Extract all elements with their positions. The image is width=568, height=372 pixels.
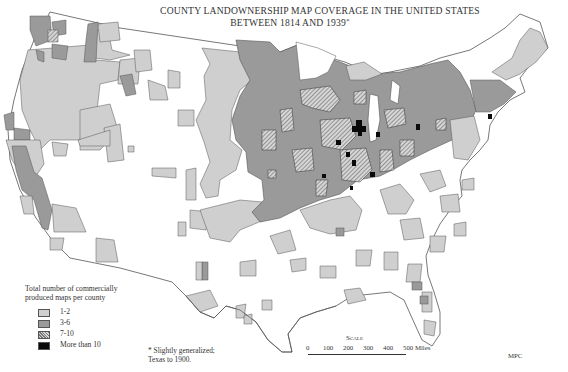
legend-item-more-than-10: More than 10: [38, 340, 135, 351]
region-1-2: [186, 168, 196, 200]
legend: Total number of commercially produced ma…: [25, 285, 135, 351]
legend-item-3-6: 3-6: [38, 318, 135, 329]
region-3-6: [336, 228, 344, 236]
region-3-6: [52, 44, 68, 60]
footnote: * Slightly generalized; Texas to 1900.: [148, 347, 215, 364]
region-1-2: [244, 314, 252, 324]
scale-tick: 400: [383, 344, 393, 351]
region-1-2: [196, 262, 202, 280]
legend-items: 1-2 3-6 7-10 More than 10: [38, 307, 135, 351]
region-1-2: [178, 110, 194, 126]
legend-label: More than 10: [60, 341, 101, 350]
region-7-10: [48, 30, 58, 42]
region-3-6: [412, 282, 422, 290]
cartographer-credit: MPC: [508, 352, 522, 359]
region-1-2: [50, 238, 64, 250]
legend-label: 7-10: [60, 330, 74, 339]
scale-tick: 100: [323, 344, 333, 351]
region-3-6: [420, 296, 428, 304]
region-1-2: [262, 300, 272, 310]
region-3-6: [4, 112, 14, 130]
region-1-2: [178, 222, 186, 236]
swatch-crosshatch: [38, 331, 50, 339]
swatch-black: [38, 342, 50, 350]
region-1-2: [152, 168, 176, 178]
region-1-2: [52, 142, 68, 156]
legend-item-7-10: 7-10: [38, 329, 135, 340]
region-1-2: [168, 70, 180, 88]
region-3-6: [202, 262, 208, 280]
region-1-2: [20, 196, 34, 214]
region-1-2: [98, 22, 120, 42]
legend-heading: Total number of commercially produced ma…: [25, 285, 135, 302]
legend-item-1-2: 1-2: [38, 307, 135, 318]
map-title-line2: BETWEEN 1814 AND 1939*: [140, 17, 440, 28]
scale-line: [308, 354, 406, 355]
scale-tick: 500 Miles: [403, 344, 430, 351]
region-1-2: [134, 50, 152, 72]
swatch-light-gray: [38, 309, 50, 317]
region-3-6: [14, 128, 30, 140]
scale-tick: 200: [343, 344, 353, 351]
scale-ticks: 0 100 200 300 400 500 Miles: [306, 344, 446, 354]
region-1-2: [128, 146, 134, 152]
scale-tick: 300: [363, 344, 373, 351]
footnote-marker: *: [346, 17, 350, 25]
map-title-line2-text: BETWEEN 1814 AND 1939: [230, 17, 346, 28]
legend-label: 3-6: [60, 319, 70, 328]
scale-tick: 0: [306, 344, 309, 351]
legend-label: 1-2: [60, 308, 70, 317]
footnote-line2: Texas to 1900.: [148, 356, 215, 365]
swatch-medium-gray: [38, 320, 50, 328]
map-title-line1: COUNTY LANDOWNERSHIP MAP COVERAGE IN THE…: [60, 5, 568, 16]
scale-label: Scale: [346, 334, 363, 342]
